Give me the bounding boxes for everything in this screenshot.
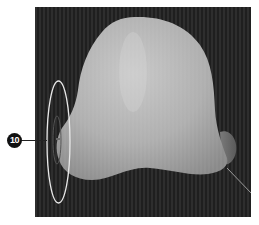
viewport-scene bbox=[0, 0, 259, 225]
guide-line bbox=[227, 168, 252, 194]
figure: 10 bbox=[0, 0, 259, 225]
callout-badge: 10 bbox=[7, 133, 22, 148]
callout-leader-line bbox=[21, 140, 47, 141]
